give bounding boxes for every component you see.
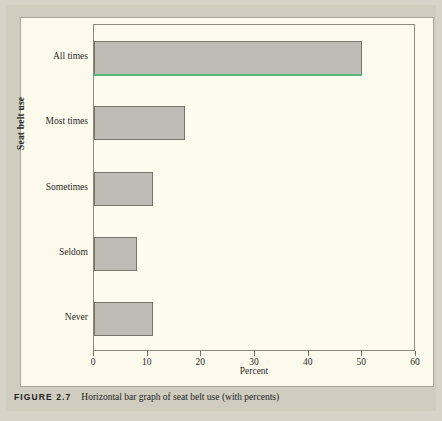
x-axis-title: Percent (93, 366, 415, 376)
plot-area (93, 24, 415, 351)
x-axis-tick-mark (93, 351, 94, 356)
bar-never (94, 302, 153, 336)
x-axis-tick-mark (361, 351, 362, 356)
chart-container: Seat belt use All timesMost timesSometim… (0, 0, 442, 421)
x-axis-tick-mark (308, 351, 309, 356)
figure-number-label: FIGURE 2.7 (14, 392, 71, 402)
y-axis-tick-label: Most times (46, 116, 89, 126)
green-scan-line (94, 74, 362, 76)
y-axis-tick-label: Seldom (59, 247, 88, 257)
x-axis-tick-mark (147, 351, 148, 356)
y-axis-category-labels: All timesMost timesSometimesSeldomNever (0, 24, 88, 351)
x-axis-tick-mark (200, 351, 201, 356)
figure-page: Seat belt use All timesMost timesSometim… (0, 0, 442, 421)
y-axis-tick-label: Never (65, 312, 88, 322)
bar-sometimes (94, 172, 153, 206)
y-axis-tick-label: Sometimes (46, 182, 88, 192)
y-axis-tick-label: All times (53, 51, 88, 61)
figure-caption: FIGURE 2.7 Horizontal bar graph of seat … (14, 388, 428, 406)
bar-most-times (94, 106, 185, 140)
x-axis-tick-mark (254, 351, 255, 356)
bar-seldom (94, 237, 137, 271)
x-axis-tick-mark (415, 351, 416, 356)
figure-caption-text: Horizontal bar graph of seat belt use (w… (81, 392, 279, 402)
bar-all-times (94, 41, 362, 75)
